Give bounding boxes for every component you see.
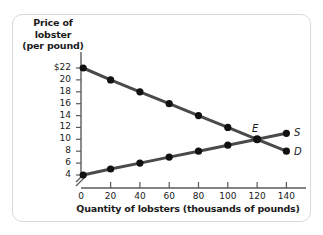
chart-plot-area: Price of lobster (per pound) Quantity of… bbox=[0, 0, 323, 235]
x-axis-title: Quantity of lobsters (thousands of pound… bbox=[66, 203, 310, 214]
y-tick-label-4: 4 bbox=[45, 169, 71, 179]
y-axis-title-line-1: Price of bbox=[20, 17, 86, 29]
y-tick-label-12: 12 bbox=[45, 121, 71, 131]
y-tick-label-20: 20 bbox=[45, 74, 71, 84]
y-tick-label-16: 16 bbox=[45, 98, 71, 108]
x-tick-label-80: 80 bbox=[186, 191, 212, 201]
y-tick-label-10: 10 bbox=[45, 133, 71, 143]
y-tick-label-6: 6 bbox=[45, 157, 71, 167]
x-tick-label-100: 100 bbox=[215, 191, 241, 201]
x-tick-label-60: 60 bbox=[156, 191, 182, 201]
x-tick-label-40: 40 bbox=[127, 191, 153, 201]
x-axis-ticks bbox=[111, 182, 287, 188]
y-axis-title-line-3: (per pound) bbox=[20, 40, 86, 52]
y-axis-title: Price of lobster (per pound) bbox=[20, 17, 86, 52]
supply-curve-label: S bbox=[294, 127, 300, 138]
equilibrium-point-marker bbox=[253, 135, 261, 143]
x-tick-label-0: 0 bbox=[68, 191, 94, 201]
y-axis-ticks bbox=[76, 68, 81, 175]
y-tick-label-8: 8 bbox=[45, 145, 71, 155]
y-axis-title-line-2: lobster bbox=[20, 29, 86, 41]
demand-curve-label: D bbox=[294, 146, 302, 157]
x-tick-label-20: 20 bbox=[98, 191, 124, 201]
x-tick-label-120: 120 bbox=[244, 191, 270, 201]
y-tick-label-22: $22 bbox=[45, 62, 71, 72]
x-tick-label-140: 140 bbox=[273, 191, 299, 201]
y-tick-label-14: 14 bbox=[45, 110, 71, 120]
equilibrium-label: E bbox=[252, 123, 258, 134]
y-tick-label-18: 18 bbox=[45, 86, 71, 96]
